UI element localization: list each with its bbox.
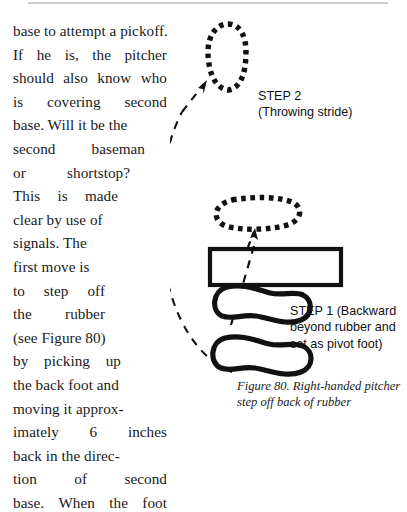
word: he <box>37 43 51 67</box>
text-line: base. Will it be the <box>13 113 167 137</box>
text-line: moving it approx- <box>13 397 167 421</box>
text-line: shouldalsoknowwho <box>13 66 167 90</box>
body-paragraph: base to attempt a pickoff. Ifheis,thepit… <box>13 19 167 512</box>
word: inches <box>128 420 167 444</box>
word: is, <box>65 43 79 67</box>
word: base. <box>13 491 44 512</box>
pitching-rubber-rectangle <box>210 249 341 285</box>
word: shortstop? <box>67 161 130 185</box>
word: to <box>13 279 25 303</box>
word: of <box>74 467 87 491</box>
word: the <box>109 491 128 512</box>
text-line: Thisismade <box>13 184 118 208</box>
text-line: the back foot and <box>13 373 167 397</box>
text-line: (see Figure 80) <box>13 326 167 350</box>
word: step <box>44 279 69 303</box>
word: imately <box>13 420 59 444</box>
word: baseman <box>92 137 145 161</box>
caption-line-1: Figure 80. Right-handed pitcher <box>237 379 407 395</box>
word: made <box>85 184 118 208</box>
text-line: imately6inches <box>13 420 167 444</box>
word: tion <box>13 467 37 491</box>
word: If <box>13 43 23 67</box>
word: the <box>13 302 32 326</box>
word: the <box>92 43 111 67</box>
step2-subtitle: (Throwing stride) <box>258 104 352 120</box>
text-line: tionofsecond <box>13 467 167 491</box>
word: off <box>87 279 105 303</box>
step1-line-3: set as pivot foot) <box>290 336 396 352</box>
text-line: signals. The <box>13 231 167 255</box>
text-line: base.Whenthefoot <box>13 491 167 512</box>
step2-foot-dashed-outline <box>208 24 246 90</box>
text-line: bypickingup <box>13 349 121 373</box>
word: who <box>141 66 167 90</box>
text-line: iscoveringsecond <box>13 90 167 114</box>
word: should <box>13 66 54 90</box>
body-text-column: base to attempt a pickoff. Ifheis,thepit… <box>13 19 167 512</box>
figure-80: STEP 2 (Throwing stride) STEP 1 (Backwar… <box>170 0 407 441</box>
word: is <box>13 90 23 114</box>
word: picking <box>44 349 90 373</box>
word: by <box>13 349 28 373</box>
word: second <box>125 90 167 114</box>
text-line: tostepoff <box>13 279 105 303</box>
step2-title: STEP 2 <box>258 88 352 104</box>
word: also <box>63 66 88 90</box>
word: covering <box>47 90 101 114</box>
word: is <box>57 184 67 208</box>
word: up <box>106 349 121 373</box>
word: second <box>13 137 55 161</box>
word: pitcher <box>124 43 167 67</box>
word: know <box>97 66 131 90</box>
figure-caption: Figure 80. Right-handed pitcher step off… <box>237 379 407 410</box>
stride-arrowhead <box>198 80 207 94</box>
word: foot <box>142 491 167 512</box>
text-line: Ifheis,thepitcher <box>13 43 167 67</box>
text-line: secondbaseman <box>13 137 145 161</box>
word: or <box>13 161 26 185</box>
text-line: clear by use of <box>13 208 167 232</box>
word: second <box>125 467 167 491</box>
step1-label: STEP 1 (Backward beyond rubber and set a… <box>290 303 396 352</box>
word: 6 <box>90 420 98 444</box>
text-line: back in the direc- <box>13 444 167 468</box>
text-line: first move is <box>13 255 167 279</box>
caption-line-2: step off back of rubber <box>237 395 407 411</box>
text-line: orshortstop? <box>13 161 130 185</box>
figure-diagram-svg <box>170 0 407 441</box>
step1-line-2: beyond rubber and <box>290 319 396 335</box>
step2-label: STEP 2 (Throwing stride) <box>258 88 352 121</box>
text-line: therubber <box>13 302 105 326</box>
word: When <box>58 491 94 512</box>
text-line: base to attempt a pickoff. <box>13 19 167 43</box>
word: rubber <box>65 302 105 326</box>
step1-line-1: STEP 1 (Backward <box>290 303 396 319</box>
word: This <box>13 184 40 208</box>
pivot-foot-dashed-outline <box>216 198 300 230</box>
